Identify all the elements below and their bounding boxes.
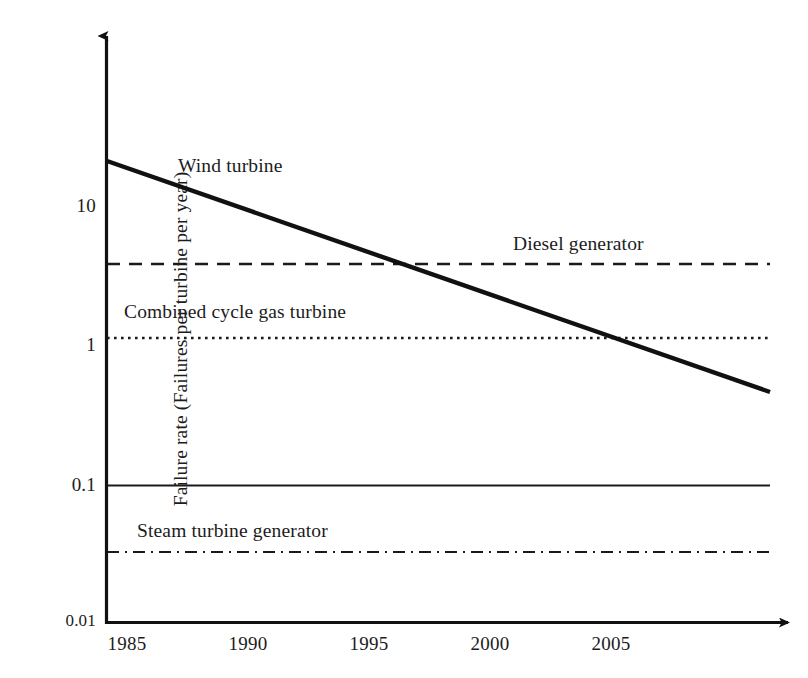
series-line-wind-turbine	[107, 161, 770, 392]
chart-figure: Failure rate (Failures per turbine per y…	[0, 0, 808, 678]
chart-plot-area	[0, 0, 808, 678]
